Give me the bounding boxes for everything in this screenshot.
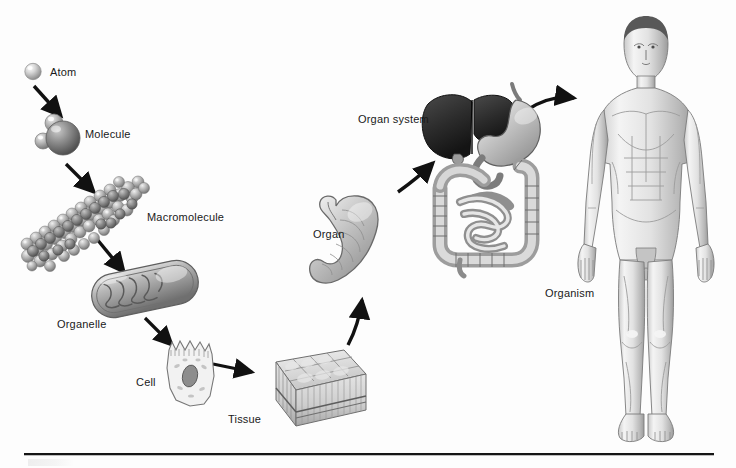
organ-illustration [300, 190, 410, 310]
atom-illustration [22, 60, 46, 84]
footer-divider [24, 453, 714, 456]
label-organism: Organism [545, 287, 594, 299]
organ-system-illustration [416, 78, 556, 273]
label-molecule: Molecule [85, 128, 131, 140]
organelle-illustration [86, 254, 204, 324]
label-organelle: Organelle [57, 318, 107, 330]
molecule-illustration [34, 108, 90, 164]
label-organ: Organ [313, 228, 345, 240]
levels-of-organization-figure: Atom Molecule Macromolecule Organelle Ce… [0, 0, 736, 468]
label-cell: Cell [136, 376, 156, 388]
cell-illustration [160, 336, 222, 408]
tissue-illustration [248, 340, 370, 440]
caption-fragment [28, 459, 74, 466]
label-organ-system: Organ system [358, 113, 429, 125]
label-tissue: Tissue [228, 413, 261, 425]
organism-illustration [566, 12, 726, 450]
label-atom: Atom [50, 66, 76, 78]
label-macromolecule: Macromolecule [147, 211, 224, 223]
